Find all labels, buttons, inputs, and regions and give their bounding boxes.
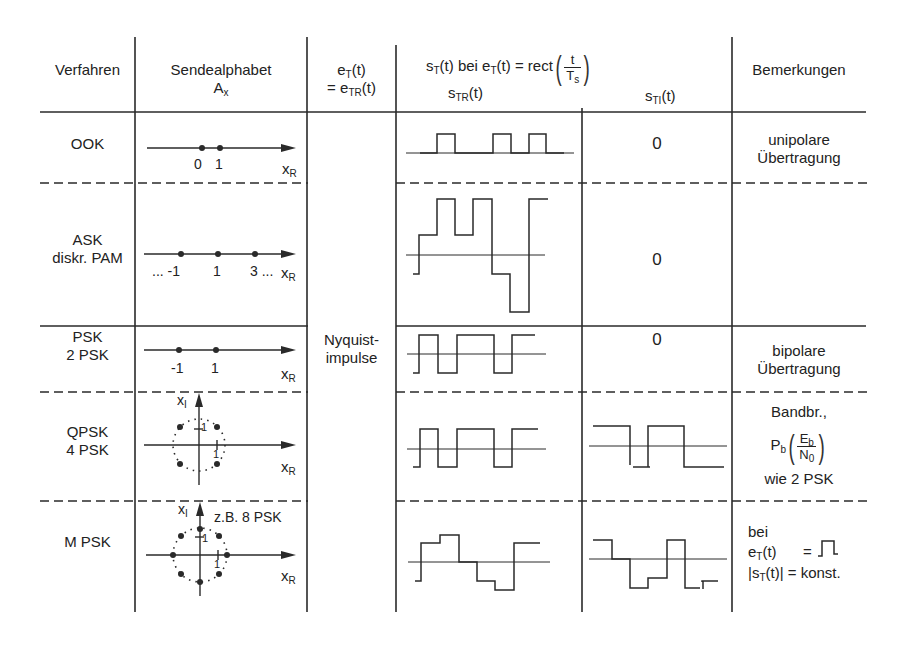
etr-base: = e bbox=[327, 79, 348, 96]
ook-sti-value: 0 bbox=[582, 135, 732, 153]
ask-label-1: 1 bbox=[213, 262, 221, 280]
verfahren-label: QPSK bbox=[67, 423, 109, 440]
fraction-den-sub: s bbox=[574, 74, 579, 85]
etr-sub: TR bbox=[348, 87, 361, 98]
ask-label-2: 3 ... bbox=[250, 262, 273, 280]
psk-axis-diagram bbox=[144, 346, 296, 354]
qpsk-constellation bbox=[144, 393, 296, 485]
row-ask-verfahren: ASK diskr. PAM bbox=[40, 231, 135, 267]
header-sti: sTI(t) bbox=[645, 87, 676, 105]
axis-base: x bbox=[282, 160, 290, 177]
axis-base: x bbox=[281, 365, 289, 382]
axis-sub: I bbox=[185, 508, 188, 519]
remark-line: Bandbr., bbox=[771, 403, 827, 420]
rect-pulse-icon bbox=[818, 541, 838, 556]
verfahren-label: M PSK bbox=[64, 533, 111, 550]
remark-line: Übertragung bbox=[757, 360, 840, 377]
ook-label-0: 0 bbox=[194, 155, 202, 173]
mpsk-str-waveform bbox=[408, 535, 550, 590]
n0-base: N bbox=[799, 447, 808, 462]
axis-sub: I bbox=[184, 399, 187, 410]
sti-arg: (t) bbox=[661, 87, 675, 104]
ask-sti-value: 0 bbox=[582, 251, 732, 269]
header-verfahren: Verfahren bbox=[40, 61, 135, 79]
st-mid: (t) bei e bbox=[440, 57, 491, 74]
fraction-num: Eb bbox=[797, 431, 816, 447]
mpsk-remark-abs: |sT(t)| = konst. bbox=[748, 564, 841, 582]
header-str: sTR(t) bbox=[448, 84, 483, 102]
ook-axis-label: xR bbox=[282, 160, 297, 178]
axis-sub: R bbox=[290, 168, 297, 179]
axis-sub: R bbox=[289, 272, 296, 283]
axis-base: x bbox=[281, 458, 289, 475]
axis-base: x bbox=[178, 501, 185, 517]
ask-str-waveform bbox=[406, 199, 548, 312]
qpsk-remarks: Bandbr., bbox=[732, 403, 866, 421]
verfahren-label: ASK bbox=[72, 231, 102, 248]
qpsk-sti-waveform bbox=[589, 426, 727, 467]
qpsk-remark-formula: Pb(EbN0) bbox=[732, 427, 866, 463]
rect-fraction: tTs bbox=[564, 52, 581, 83]
fraction-den: N0 bbox=[797, 447, 816, 462]
sti-waveforms bbox=[589, 426, 727, 589]
ook-label-1: 1 bbox=[215, 155, 223, 173]
psk-axis-label: xR bbox=[281, 365, 296, 383]
row-mpsk-verfahren: M PSK bbox=[40, 533, 135, 551]
verfahren-label: OOK bbox=[71, 135, 104, 152]
verfahren-label: 4 PSK bbox=[66, 441, 109, 458]
fraction-num: t bbox=[564, 52, 581, 68]
verfahren-label: PSK bbox=[72, 328, 102, 345]
axis-base: x bbox=[281, 264, 289, 281]
qpsk-label-imag-1: 1 bbox=[201, 421, 207, 433]
n0-sub: 0 bbox=[809, 453, 815, 464]
merged-nyquist-cell: Nyquist- impulse bbox=[307, 331, 396, 367]
psk-label-0: -1 bbox=[171, 359, 183, 377]
verfahren-label: diskr. PAM bbox=[52, 249, 123, 266]
psk-str-waveform bbox=[407, 335, 546, 373]
mpsk-remark-bei: bei bbox=[748, 523, 768, 541]
str-sub: TR bbox=[456, 92, 469, 103]
str-arg: (t) bbox=[469, 84, 483, 101]
axis-sub: R bbox=[289, 466, 296, 477]
str-waveforms bbox=[406, 134, 574, 590]
verfahren-label: 2 PSK bbox=[66, 346, 109, 363]
ask-axis-label: xR bbox=[281, 264, 296, 282]
remark-line: bipolare bbox=[772, 342, 825, 359]
row-ook-verfahren: OOK bbox=[40, 135, 135, 153]
nyquist-line: impulse bbox=[326, 349, 378, 366]
axis-sub: R bbox=[289, 373, 296, 384]
remark-line: bei bbox=[748, 523, 768, 540]
row-psk-verfahren: PSK 2 PSK bbox=[40, 328, 135, 364]
header-sendealphabet-label: Sendealphabet bbox=[171, 61, 272, 78]
mpsk-axis-i-label: xI bbox=[178, 500, 188, 518]
row-qpsk-verfahren: QPSK 4 PSK bbox=[40, 423, 135, 459]
left-paren: ( bbox=[555, 50, 561, 84]
pb-sub: b bbox=[780, 444, 786, 455]
remark-line: unipolare bbox=[768, 131, 830, 148]
mpsk-note: z.B. 8 PSK bbox=[214, 508, 282, 526]
ask-label-0: ... -1 bbox=[152, 262, 180, 280]
psk-remarks: bipolare Übertragung bbox=[732, 342, 866, 378]
et-base: e bbox=[337, 61, 345, 78]
eb-sub: b bbox=[808, 437, 814, 448]
alphabet-diagrams bbox=[144, 144, 296, 596]
abs-post: (t)| = konst. bbox=[766, 564, 841, 581]
str-base: s bbox=[448, 84, 456, 101]
etr-arg: (t) bbox=[362, 79, 376, 96]
header-verfahren-label: Verfahren bbox=[55, 61, 120, 78]
header-et: eT(t) = eTR(t) bbox=[307, 61, 396, 97]
header-bemerkungen-label: Bemerkungen bbox=[752, 61, 845, 78]
psk-sti-value: 0 bbox=[582, 331, 732, 349]
header-alphabet-sub: x bbox=[224, 87, 229, 98]
eb-n0-fraction: EbN0 bbox=[797, 431, 816, 462]
et-arg: (t) bbox=[762, 543, 776, 560]
nyquist-line: Nyquist- bbox=[324, 331, 379, 348]
header-st-formula: sT(t) bei eT(t) = rect(tTs) bbox=[426, 50, 592, 84]
axis-base: x bbox=[177, 392, 184, 408]
ook-remarks: unipolare Übertragung bbox=[732, 131, 866, 167]
ask-axis-diagram bbox=[144, 250, 296, 258]
header-bemerkungen: Bemerkungen bbox=[732, 61, 866, 79]
left-paren: ( bbox=[789, 429, 795, 463]
mpsk-label-imag-1: 1 bbox=[202, 532, 208, 544]
mpsk-remark-eq: = bbox=[803, 543, 812, 561]
